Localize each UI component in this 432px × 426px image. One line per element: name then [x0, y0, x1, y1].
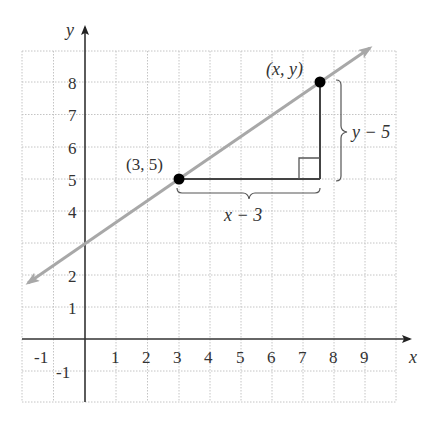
svg-text:2: 2	[68, 267, 77, 286]
coordinate-plane: x y -1 1 2 3 4 5 6 7 8 9 8 7 6 5 4 2 1 -…	[0, 0, 432, 426]
svg-text:1: 1	[111, 348, 120, 367]
right-angle-marker	[299, 158, 320, 179]
svg-text:6: 6	[267, 348, 276, 367]
svg-text:4: 4	[204, 348, 213, 367]
svg-text:2: 2	[142, 348, 151, 367]
svg-text:5: 5	[236, 348, 245, 367]
svg-text:8: 8	[68, 74, 77, 93]
point-3-5-label: (3, 5)	[126, 155, 163, 174]
point-x-y-label: (x, y)	[266, 59, 303, 80]
vertical-brace-label: y − 5	[350, 122, 390, 142]
svg-text:5: 5	[68, 171, 77, 190]
svg-text:4: 4	[68, 203, 77, 222]
svg-text:-1: -1	[34, 348, 48, 367]
vertical-brace	[336, 80, 347, 181]
svg-text:1: 1	[68, 299, 77, 318]
x-tick-labels: -1 1 2 3 4 5 6 7 8 9	[34, 348, 369, 367]
svg-text:6: 6	[68, 139, 77, 158]
point-3-5	[174, 174, 185, 185]
point-x-y	[315, 77, 326, 88]
horizontal-brace	[177, 188, 320, 199]
y-tick-labels: 8 7 6 5 4 2 1 -1	[56, 74, 77, 382]
svg-text:9: 9	[360, 348, 369, 367]
y-axis-label: y	[64, 20, 74, 40]
svg-text:3: 3	[173, 348, 182, 367]
svg-text:8: 8	[329, 348, 338, 367]
svg-text:-1: -1	[56, 363, 70, 382]
horizontal-brace-label: x − 3	[223, 205, 262, 225]
x-axis-label: x	[408, 347, 417, 367]
svg-text:7: 7	[298, 348, 307, 367]
svg-text:7: 7	[68, 106, 77, 125]
